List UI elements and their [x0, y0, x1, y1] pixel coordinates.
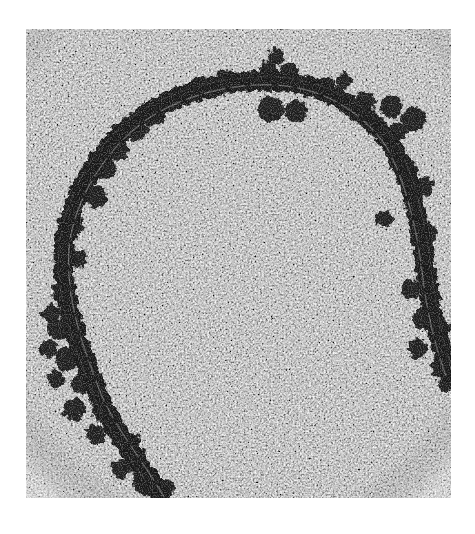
- micrograph-image: [26, 29, 451, 498]
